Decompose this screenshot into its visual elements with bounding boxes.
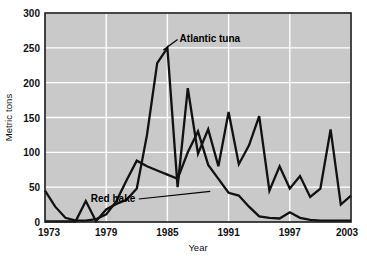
series-annotation-atlantic-tuna: Atlantic tuna: [180, 33, 241, 44]
series-annotation-red-hake: Red hake: [91, 193, 135, 204]
annotation-labels: Atlantic tunaRed hake: [0, 0, 367, 262]
chart-figure: Metric tons 050100150200250300 197319791…: [0, 0, 367, 262]
